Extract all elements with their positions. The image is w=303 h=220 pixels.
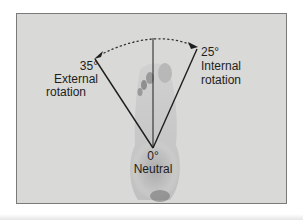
- rotation-arc: [100, 39, 194, 55]
- foot-image: [130, 63, 180, 202]
- internal-rotation-label-line2: rotation: [201, 74, 241, 86]
- external-rotation-label-line1: External: [46, 73, 98, 85]
- internal-rotation-label-line1: Internal: [201, 60, 241, 72]
- page-edge: [0, 214, 303, 220]
- arrowhead-right-icon: [188, 42, 198, 49]
- internal-angle-label: 25°: [201, 46, 219, 58]
- neutral-label: Neutral: [128, 163, 178, 175]
- arrowhead-left-icon: [94, 51, 103, 59]
- external-rotation-label-line2: rotation: [46, 86, 91, 98]
- rotation-diagram: [0, 0, 303, 220]
- neutral-angle-label: 0°: [138, 150, 168, 162]
- external-angle-label: 35°: [74, 60, 98, 72]
